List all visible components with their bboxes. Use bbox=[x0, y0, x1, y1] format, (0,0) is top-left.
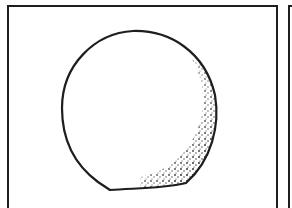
sphere-drawing bbox=[0, 0, 292, 208]
